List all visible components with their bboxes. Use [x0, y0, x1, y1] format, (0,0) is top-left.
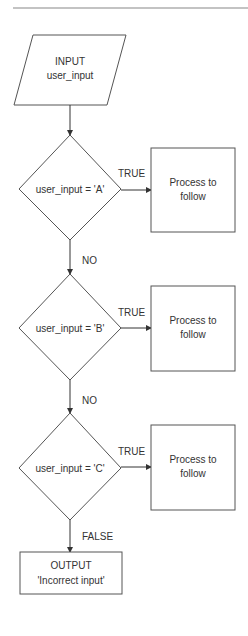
process-a-line2: follow: [180, 191, 206, 202]
process-a-box: [151, 148, 235, 232]
decision-c-true-label: TRUE: [118, 446, 146, 457]
process-b-line1: Process to: [169, 315, 217, 326]
decision-c-condition: user_input = 'C': [35, 463, 104, 474]
process-c-line2: follow: [180, 468, 206, 479]
decision-b-condition: user_input = 'B': [36, 323, 105, 334]
process-b: Process to follow: [151, 286, 235, 371]
decision-c-false-label: FALSE: [82, 531, 113, 542]
decision-a-condition: user_input = 'A': [36, 184, 105, 195]
output-label-line1: OUTPUT: [50, 560, 91, 571]
decision-a-true-label: TRUE: [118, 168, 146, 179]
output-box: [20, 552, 122, 594]
flowchart: INPUT user_input user_input = 'A' TRUE P…: [0, 0, 248, 636]
decision-b: user_input = 'B': [19, 274, 121, 380]
process-c-line1: Process to: [169, 454, 217, 465]
decision-a-no-label: NO: [82, 255, 97, 266]
output-label-line2: 'Incorrect input': [37, 575, 104, 586]
input-label-line2: user_input: [47, 70, 94, 81]
decision-b-no-label: NO: [82, 395, 97, 406]
input-label-line1: INPUT: [55, 56, 85, 67]
output-node: OUTPUT 'Incorrect input': [20, 552, 122, 594]
process-a: Process to follow: [151, 148, 235, 232]
process-b-line2: follow: [180, 329, 206, 340]
process-c: Process to follow: [151, 425, 235, 510]
decision-b-true-label: TRUE: [118, 307, 146, 318]
decision-c: user_input = 'C': [19, 413, 121, 520]
decision-a: user_input = 'A': [19, 135, 121, 240]
input-node: INPUT user_input: [14, 35, 126, 105]
process-a-line1: Process to: [169, 177, 217, 188]
